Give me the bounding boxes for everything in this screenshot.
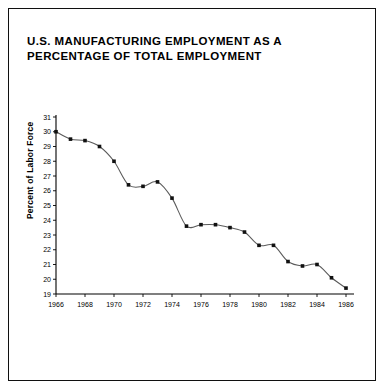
y-tick-label: 30 <box>43 128 51 135</box>
x-tick-label: 1976 <box>193 301 209 308</box>
data-point-marker <box>69 137 73 141</box>
data-point-marker <box>199 223 203 227</box>
data-point-marker <box>83 139 87 143</box>
data-point-marker <box>54 130 58 134</box>
y-tick-label: 21 <box>43 261 51 268</box>
x-tick-label: 1966 <box>48 301 64 308</box>
x-tick-label: 1980 <box>251 301 267 308</box>
data-point-marker <box>315 263 319 267</box>
plot-area: 19202122232425262728293031 1966196819701… <box>9 9 377 382</box>
line-chart-svg: 19202122232425262728293031 1966196819701… <box>9 9 377 382</box>
data-point-marker <box>301 264 305 268</box>
x-tick-label: 1986 <box>338 301 354 308</box>
y-axis-title: Percent of Labor Force <box>25 121 35 219</box>
y-tick-label: 29 <box>43 143 51 150</box>
x-tick-label: 1970 <box>106 301 122 308</box>
data-point-marker <box>112 159 116 163</box>
x-tick-label: 1982 <box>280 301 296 308</box>
x-tick-label: 1968 <box>77 301 93 308</box>
data-point-marker <box>127 183 131 187</box>
x-tick-label: 1974 <box>164 301 180 308</box>
y-tick-label: 25 <box>43 202 51 209</box>
data-point-marker <box>286 260 290 264</box>
y-tick-label: 19 <box>43 291 51 298</box>
y-tick-label: 23 <box>43 232 51 239</box>
data-point-marker <box>228 226 232 230</box>
y-tick-label: 26 <box>43 187 51 194</box>
x-tick-label: 1978 <box>222 301 238 308</box>
x-axis: 1966196819701972197419761978198019821984… <box>48 294 354 308</box>
data-point-marker <box>330 276 334 280</box>
data-point-marker <box>272 244 276 248</box>
data-point-marker <box>243 230 247 234</box>
data-point-marker <box>141 185 145 189</box>
y-tick-label: 27 <box>43 173 51 180</box>
data-point-marker <box>98 145 102 149</box>
data-point-marker <box>185 224 189 228</box>
x-tick-label: 1972 <box>135 301 151 308</box>
y-tick-label: 22 <box>43 246 51 253</box>
y-axis: 19202122232425262728293031 <box>43 114 56 298</box>
data-point-marker <box>344 286 348 290</box>
chart-figure-frame: U.S. MANUFACTURING EMPLOYMENT AS A PERCE… <box>8 8 376 381</box>
y-tick-label: 24 <box>43 217 51 224</box>
data-series <box>54 130 348 290</box>
y-tick-label: 31 <box>43 114 51 121</box>
x-tick-label: 1984 <box>309 301 325 308</box>
data-point-marker <box>214 223 218 227</box>
y-tick-label: 20 <box>43 276 51 283</box>
data-point-marker <box>156 180 160 184</box>
data-point-marker <box>257 244 261 248</box>
data-point-marker <box>170 196 174 200</box>
y-tick-label: 28 <box>43 158 51 165</box>
